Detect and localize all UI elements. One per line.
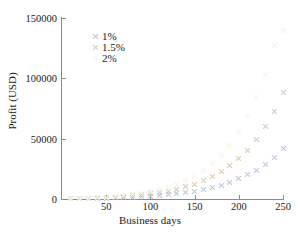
legend-label: 1.5% (102, 42, 125, 53)
data-point (218, 152, 225, 159)
y-tick-label: 0 (0, 194, 57, 205)
y-tick-label: 150000 (0, 13, 57, 24)
legend-marker-icon (92, 44, 99, 51)
data-point (191, 172, 198, 179)
legend-marker-icon (92, 55, 99, 62)
data-point (147, 188, 154, 195)
legend-item-15[interactable]: 1.5% (92, 42, 125, 52)
y-axis-label: Profit (USD) (6, 51, 18, 151)
y-tick-mark (62, 199, 66, 200)
legend-label: 1% (102, 31, 117, 42)
x-tick-label: 250 (275, 201, 291, 212)
data-point (112, 193, 119, 200)
data-point (67, 195, 74, 202)
data-point (156, 186, 163, 193)
data-point (235, 129, 242, 136)
data-point (226, 142, 233, 149)
data-point (120, 192, 127, 199)
data-point (209, 160, 216, 167)
chart-figure: 50100150200250 050000100000150000 Busine… (0, 0, 300, 235)
data-point (262, 71, 269, 78)
data-point (271, 42, 278, 49)
data-point (200, 167, 207, 174)
data-point (94, 194, 101, 201)
data-point (76, 195, 83, 202)
data-point (165, 184, 172, 191)
data-point (138, 190, 145, 197)
x-tick-label: 100 (143, 201, 159, 212)
x-axis-line (61, 199, 284, 200)
data-point (129, 191, 136, 198)
chart-legend: 1%1.5%2% (92, 31, 125, 64)
legend-marker-icon (92, 33, 99, 40)
data-point (173, 181, 180, 188)
data-point (253, 94, 260, 101)
data-point (85, 195, 92, 202)
data-point (182, 177, 189, 184)
data-point (280, 27, 287, 34)
x-tick-label: 50 (101, 201, 112, 212)
x-tick-label: 150 (187, 201, 203, 212)
x-tick-mark (283, 195, 284, 199)
x-tick-label: 200 (231, 201, 247, 212)
x-axis-label: Business days (0, 214, 300, 226)
legend-item-2[interactable]: 2% (92, 53, 125, 63)
legend-item-1[interactable]: 1% (92, 31, 125, 41)
data-point (244, 113, 251, 120)
legend-label: 2% (102, 53, 117, 64)
